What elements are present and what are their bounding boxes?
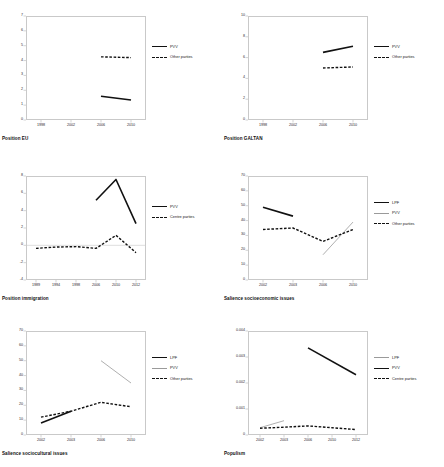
series-line-other-parties [323, 67, 353, 68]
legend-label: Other parties [392, 55, 415, 59]
legend-swatch-icon [374, 368, 389, 369]
series-line-centre-parties [260, 426, 356, 430]
legend-swatch-icon [152, 368, 167, 369]
chart-legend: LPFPVVCentre parties [374, 355, 416, 387]
chart-legend: LPFPVVOther parties [374, 200, 415, 232]
plot-canvas [0, 0, 222, 160]
legend-swatch-icon [374, 213, 389, 214]
legend-item[interactable]: LPF [152, 355, 193, 360]
chart-panel-populism: 00.0010.0020.0030.0042002200320062010201… [222, 315, 444, 467]
chart-legend: PVVCentre parties [152, 204, 194, 225]
legend-swatch-icon [152, 57, 167, 58]
series-line-pvv [101, 361, 131, 383]
legend-label: PVV [170, 45, 178, 49]
legend-swatch-icon [374, 202, 389, 203]
chart-panel-position-immigration: -4-202468198919941998200620102012PVVCent… [0, 160, 222, 315]
legend-label: Other parties [170, 377, 193, 381]
legend-item[interactable]: PVV [374, 211, 415, 216]
legend-label: LPF [392, 201, 399, 205]
legend-item[interactable]: PVV [152, 44, 193, 49]
legend-swatch-icon [374, 378, 389, 379]
legend-label: PVV [392, 45, 400, 49]
series-line-pvv [101, 96, 131, 100]
chart-panel-salience-socioeconomic-issues: 0102030405060702002200320062010LPFPVVOth… [222, 160, 444, 315]
legend-label: Centre parties [392, 377, 416, 381]
panel-caption: Salience sociocultural issues [2, 451, 68, 456]
legend-item[interactable]: Other parties [152, 376, 193, 381]
series-line-other-parties [41, 402, 131, 417]
series-line-pvv [308, 348, 356, 375]
legend-item[interactable]: Other parties [374, 221, 415, 226]
chart-legend: PVVOther parties [374, 44, 415, 65]
legend-item[interactable]: LPF [374, 355, 416, 360]
series-line-other-parties [263, 228, 353, 241]
chart-legend: PVVOther parties [152, 44, 193, 65]
legend-item[interactable]: LPF [374, 200, 415, 205]
panel-caption: Position immigration [2, 296, 49, 301]
legend-swatch-icon [374, 357, 389, 358]
legend-label: PVV [170, 366, 178, 370]
series-line-pvv [96, 179, 136, 223]
legend-label: LPF [170, 356, 177, 360]
series-line-centre-parties [36, 235, 136, 252]
chart-panel-position-eu: 012345671998200220062010PVVOther parties… [0, 0, 222, 160]
legend-item[interactable]: PVV [374, 366, 416, 371]
series-line-lpf [260, 421, 284, 428]
legend-label: PVV [392, 211, 400, 215]
legend-swatch-icon [152, 46, 167, 47]
legend-swatch-icon [152, 206, 167, 207]
legend-item[interactable]: Other parties [374, 55, 415, 60]
series-line-other-parties [101, 57, 131, 58]
legend-label: LPF [392, 356, 399, 360]
legend-swatch-icon [152, 378, 167, 379]
series-line-lpf [41, 411, 71, 423]
series-line-pvv [323, 222, 353, 255]
series-line-pvv [323, 46, 353, 52]
series-line-lpf [263, 207, 293, 216]
plot-canvas [222, 315, 444, 467]
legend-swatch-icon [152, 357, 167, 358]
chart-panel-salience-sociocultural-issues: 0102030405060702002200320062010LPFPVVOth… [0, 315, 222, 467]
legend-item[interactable]: Other parties [152, 55, 193, 60]
plot-canvas [0, 315, 222, 467]
legend-item[interactable]: PVV [374, 44, 415, 49]
legend-swatch-icon [152, 217, 167, 218]
legend-label: PVV [392, 366, 400, 370]
panel-caption: Position GALTAN [224, 136, 263, 141]
legend-label: Other parties [392, 222, 415, 226]
legend-swatch-icon [374, 57, 389, 58]
legend-item[interactable]: PVV [152, 204, 194, 209]
chart-panel-position-galtan: 02468101998200220062010PVVOther partiesP… [222, 0, 444, 160]
legend-item[interactable]: Centre parties [152, 215, 194, 220]
legend-label: PVV [170, 205, 178, 209]
figure-panel-grid: 012345671998200220062010PVVOther parties… [0, 0, 444, 467]
chart-legend: LPFPVVOther parties [152, 355, 193, 387]
panel-caption: Salience socioeconomic issues [224, 296, 294, 301]
panel-caption: Populism [224, 451, 245, 456]
panel-caption: Position EU [2, 136, 28, 141]
legend-item[interactable]: Centre parties [374, 376, 416, 381]
legend-label: Other parties [170, 55, 193, 59]
legend-item[interactable]: PVV [152, 366, 193, 371]
legend-swatch-icon [374, 223, 389, 224]
legend-label: Centre parties [170, 215, 194, 219]
legend-swatch-icon [374, 46, 389, 47]
